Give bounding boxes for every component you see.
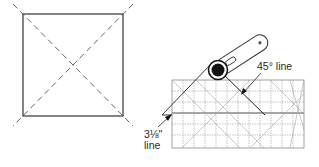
square-figure xyxy=(13,4,133,126)
cutter-wheel xyxy=(212,64,225,77)
illustration: 45° line 3⅛" line xyxy=(0,0,319,167)
measure-line-label: 3⅛" line xyxy=(144,129,162,151)
rotary-cutter xyxy=(209,32,272,80)
measure-line-word: line xyxy=(144,140,162,151)
ruler xyxy=(172,80,304,148)
angle-line-label: 45° line xyxy=(257,61,292,72)
